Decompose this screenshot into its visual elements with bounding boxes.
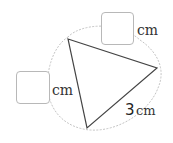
triangle-diagram: cm cm 3 cm	[0, 0, 173, 143]
answer-box-left-side[interactable]	[16, 71, 50, 104]
length-bottom-right-side: 3	[125, 103, 135, 118]
unit-bottom-right-side: cm	[136, 104, 156, 118]
unit-left-side: cm	[52, 83, 73, 97]
unit-top-side: cm	[137, 23, 158, 37]
answer-box-top-side[interactable]	[101, 12, 134, 45]
